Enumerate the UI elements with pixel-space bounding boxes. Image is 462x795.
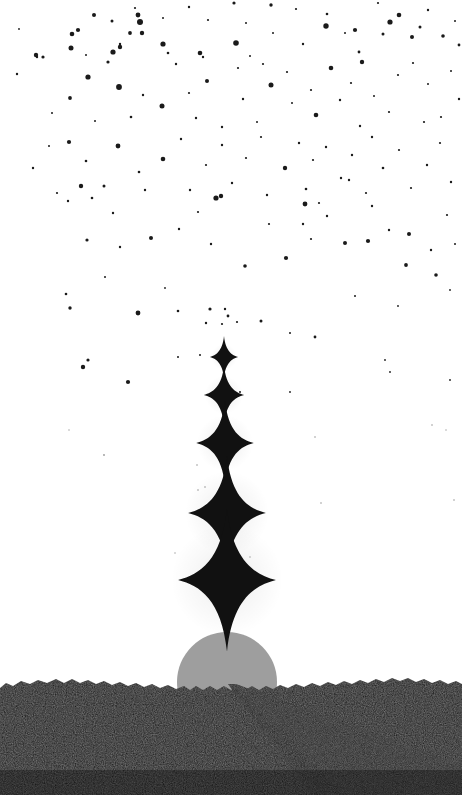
artboard (0, 0, 462, 795)
ground-vignette (0, 770, 462, 795)
scene-illustration (0, 0, 462, 795)
